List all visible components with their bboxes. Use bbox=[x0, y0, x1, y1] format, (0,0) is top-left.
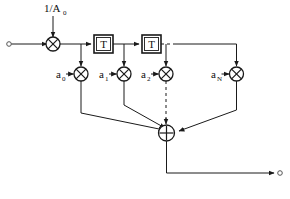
tap-1-group: a 1 bbox=[99, 67, 131, 83]
gain-label-subscript: 0 bbox=[63, 9, 67, 17]
delay-block-2-label: T bbox=[148, 38, 155, 50]
wire-tap0-to-summer bbox=[81, 81, 164, 130]
output-terminal-circle bbox=[278, 171, 283, 176]
tap-2-label-subscript: 2 bbox=[147, 75, 151, 83]
diagram-canvas: 1/A 0 T T bbox=[0, 0, 290, 199]
tap-N-label: a bbox=[211, 68, 216, 80]
tap-N-group: a N bbox=[211, 67, 244, 83]
tap-0-label-subscript: 0 bbox=[62, 75, 66, 83]
input-terminal-circle bbox=[7, 42, 12, 47]
gain-label: 1/A bbox=[44, 2, 61, 14]
tap-2-group: a 2 bbox=[141, 67, 173, 83]
tap-1-label: a bbox=[99, 68, 104, 80]
gain-label-group: 1/A 0 bbox=[44, 2, 67, 17]
tap-1-label-subscript: 1 bbox=[105, 75, 109, 83]
input-terminal bbox=[7, 42, 12, 47]
delay-block-2: T bbox=[142, 35, 161, 53]
delay-block-1: T bbox=[94, 35, 113, 53]
wire-summer-to-output bbox=[167, 141, 275, 173]
tap-2-label: a bbox=[141, 68, 146, 80]
wire-tapN-to-summer bbox=[179, 81, 237, 131]
delay-block-1-label: T bbox=[100, 38, 107, 50]
output-terminal bbox=[278, 171, 283, 176]
tap-0-group: a 0 bbox=[56, 67, 88, 83]
tap-N-label-subscript: N bbox=[217, 75, 222, 83]
gain-multiplier-node bbox=[46, 37, 60, 51]
tap-0-label: a bbox=[56, 68, 61, 80]
summer-node bbox=[159, 125, 175, 141]
wire-tap1-to-summer bbox=[124, 81, 165, 128]
fir-filter-diagram: 1/A 0 T T bbox=[0, 0, 290, 199]
